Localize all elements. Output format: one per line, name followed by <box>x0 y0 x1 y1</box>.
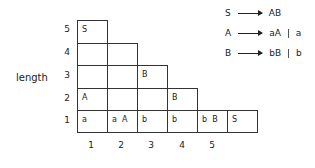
grid-cell <box>107 43 138 66</box>
col-label-1: 1 <box>86 140 96 150</box>
col-label-3: 3 <box>146 140 156 150</box>
rule-a: A aA a <box>225 28 301 38</box>
arrow-right-icon <box>238 13 262 14</box>
rule-rhs: b <box>296 48 302 58</box>
grid-cell <box>77 65 108 89</box>
grid-cell: b B <box>197 110 228 133</box>
col-label-5: 5 <box>207 140 217 150</box>
rule-b: B bB b <box>225 48 302 58</box>
rule-rhs: aA <box>269 28 281 38</box>
row-label-2: 2 <box>60 93 70 103</box>
rule-rhs: a <box>296 28 302 38</box>
rule-lhs: S <box>225 8 231 18</box>
grid-cell: A <box>77 88 108 111</box>
grid-cell: B <box>137 65 168 89</box>
row-label-5: 5 <box>60 24 70 34</box>
rule-rhs: bB <box>269 48 281 58</box>
grid-cell <box>137 88 168 111</box>
col-label-2: 2 <box>116 140 126 150</box>
grid-cell <box>77 43 108 66</box>
row-label-4: 4 <box>60 47 70 57</box>
row-label-3: 3 <box>60 70 70 80</box>
grid-cell: S <box>77 20 108 44</box>
alternation-bar <box>288 49 289 58</box>
rule-lhs: A <box>225 28 231 38</box>
grid-cell: b <box>137 110 168 133</box>
arrow-right-icon <box>238 53 262 54</box>
grid-cell: B <box>167 88 198 111</box>
rule-s: S AB <box>225 8 281 18</box>
row-label-1: 1 <box>60 115 70 125</box>
arrow-right-icon <box>238 33 262 34</box>
alternation-bar <box>288 29 289 38</box>
rule-lhs: B <box>225 48 231 58</box>
grid-cell: a <box>77 110 108 133</box>
grid-cell: S <box>227 110 258 133</box>
grid-cell <box>107 65 138 89</box>
grid-cell: b <box>167 110 198 133</box>
grid-cell <box>107 88 138 111</box>
col-label-4: 4 <box>177 140 187 150</box>
grid-cell: a A <box>107 110 138 133</box>
y-axis-label: length <box>16 72 48 83</box>
rule-rhs: AB <box>269 8 281 18</box>
